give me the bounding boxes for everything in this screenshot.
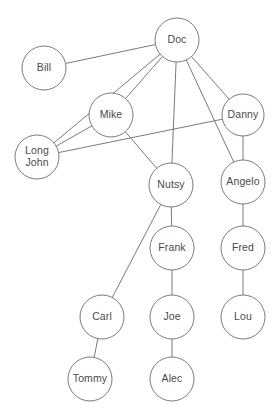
graph-node-circle-carl[interactable] xyxy=(80,295,124,339)
graph-node-lou[interactable]: Lou xyxy=(221,295,265,339)
graph-node-danny[interactable]: Danny xyxy=(222,94,264,136)
graph-node-circle-alec[interactable] xyxy=(150,357,194,401)
graph-node-bill[interactable]: Bill xyxy=(22,46,66,90)
graph-node-circle-angelo[interactable] xyxy=(221,160,265,204)
graph-node-circle-bill[interactable] xyxy=(22,46,66,90)
graph-node-frank[interactable]: Frank xyxy=(150,226,194,270)
graph-node-joe[interactable]: Joe xyxy=(150,295,194,339)
network-diagram-canvas: DocBillMikeDannyLongJohnAngeloNutsyFrank… xyxy=(0,0,280,417)
graph-node-circle-doc[interactable] xyxy=(155,18,199,62)
graph-node-circle-longjohn[interactable] xyxy=(15,135,59,179)
graph-node-alec[interactable]: Alec xyxy=(150,357,194,401)
graph-edge-longjohn-danny xyxy=(59,119,223,152)
graph-node-circle-frank[interactable] xyxy=(150,226,194,270)
graph-node-tommy[interactable]: Tommy xyxy=(68,357,112,401)
graph-node-circle-nutsy[interactable] xyxy=(149,163,193,207)
graph-node-nutsy[interactable]: Nutsy xyxy=(149,163,193,207)
network-diagram: DocBillMikeDannyLongJohnAngeloNutsyFrank… xyxy=(0,0,280,417)
graph-node-doc[interactable]: Doc xyxy=(155,18,199,62)
graph-edge-carl-tommy xyxy=(94,339,98,358)
node-layer: DocBillMikeDannyLongJohnAngeloNutsyFrank… xyxy=(15,18,265,401)
graph-edge-doc-nutsy xyxy=(172,62,176,163)
graph-node-circle-tommy[interactable] xyxy=(68,357,112,401)
graph-node-circle-fred[interactable] xyxy=(221,226,265,270)
graph-edge-doc-bill xyxy=(66,45,156,64)
graph-node-fred[interactable]: Fred xyxy=(221,226,265,270)
graph-edge-doc-mike xyxy=(126,57,163,99)
graph-edge-doc-danny xyxy=(192,57,230,100)
graph-edge-mike-nutsy xyxy=(125,132,156,169)
graph-node-circle-lou[interactable] xyxy=(221,295,265,339)
graph-node-circle-danny[interactable] xyxy=(222,94,264,136)
graph-node-carl[interactable]: Carl xyxy=(80,295,124,339)
graph-node-angelo[interactable]: Angelo xyxy=(221,160,265,204)
graph-node-mike[interactable]: Mike xyxy=(89,93,133,137)
graph-node-circle-mike[interactable] xyxy=(89,93,133,137)
graph-node-longjohn[interactable]: LongJohn xyxy=(15,135,59,179)
graph-node-circle-joe[interactable] xyxy=(150,295,194,339)
